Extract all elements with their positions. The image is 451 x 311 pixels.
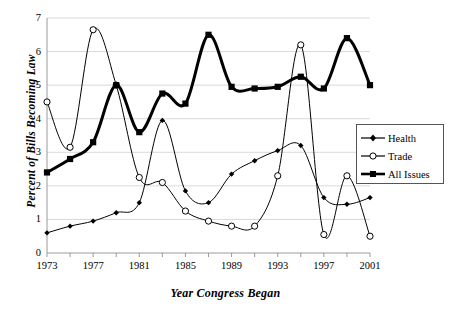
data-point xyxy=(136,174,142,180)
x-tick-label: 1985 xyxy=(165,261,205,271)
data-point xyxy=(67,156,73,162)
x-tick-label: 1997 xyxy=(304,261,344,271)
data-point xyxy=(182,208,188,214)
y-tick-label: 5 xyxy=(23,80,41,90)
data-point xyxy=(44,230,49,235)
series-all-issues xyxy=(44,32,373,176)
data-point xyxy=(367,195,372,200)
data-point xyxy=(228,223,234,229)
all-issues-marker-icon xyxy=(360,168,386,180)
data-point xyxy=(90,27,96,33)
data-point xyxy=(182,101,188,107)
data-point xyxy=(228,84,234,90)
x-tick-label: 1989 xyxy=(212,261,252,271)
data-point xyxy=(159,90,165,96)
data-point xyxy=(67,144,73,150)
y-tick-label: 2 xyxy=(23,181,41,191)
data-point xyxy=(205,218,211,224)
data-point xyxy=(298,74,304,80)
data-point xyxy=(44,99,50,105)
chart-container: Percent of Bills Becoming Law Year Congr… xyxy=(0,0,451,311)
chart-legend: Health Trade All Issues xyxy=(356,124,444,184)
data-point xyxy=(205,32,211,38)
data-point xyxy=(136,129,142,135)
data-point xyxy=(206,200,211,205)
data-point xyxy=(321,231,327,237)
y-tick-label: 6 xyxy=(23,47,41,57)
data-point xyxy=(113,82,119,88)
legend-label-trade: Trade xyxy=(386,151,412,162)
x-tick-label: 1977 xyxy=(73,261,113,271)
x-tick-label: 1973 xyxy=(27,261,67,271)
legend-item-all-issues: All Issues xyxy=(360,165,440,183)
x-tick-label: 1981 xyxy=(119,261,159,271)
data-point xyxy=(44,169,50,175)
data-point xyxy=(114,210,119,215)
x-tick-label: 1993 xyxy=(258,261,298,271)
data-point xyxy=(67,223,72,228)
legend-label-all-issues: All Issues xyxy=(386,169,430,180)
y-tick-label: 7 xyxy=(23,13,41,23)
data-point xyxy=(298,42,304,48)
y-tick-label: 4 xyxy=(23,114,41,124)
data-point xyxy=(252,158,257,163)
data-point xyxy=(90,139,96,145)
data-point xyxy=(252,85,258,91)
series-trade xyxy=(44,27,373,240)
legend-item-trade: Trade xyxy=(360,147,440,165)
trade-marker-icon xyxy=(360,150,386,162)
x-tick-label: 2001 xyxy=(350,261,390,271)
data-point xyxy=(275,173,281,179)
data-point xyxy=(367,233,373,239)
data-point xyxy=(321,85,327,91)
y-tick-label: 3 xyxy=(23,147,41,157)
data-point xyxy=(183,188,188,193)
series-line xyxy=(47,28,370,238)
data-point xyxy=(344,35,350,41)
data-point xyxy=(367,82,373,88)
series-line xyxy=(47,35,370,173)
data-point xyxy=(275,84,281,90)
legend-label-health: Health xyxy=(386,133,416,144)
data-point xyxy=(159,179,165,185)
data-point xyxy=(344,202,349,207)
legend-item-health: Health xyxy=(360,129,440,147)
data-point xyxy=(344,173,350,179)
data-point xyxy=(137,200,142,205)
y-tick-label: 1 xyxy=(23,214,41,224)
data-point xyxy=(252,223,258,229)
y-tick-label: 0 xyxy=(23,248,41,258)
health-marker-icon xyxy=(360,132,386,144)
